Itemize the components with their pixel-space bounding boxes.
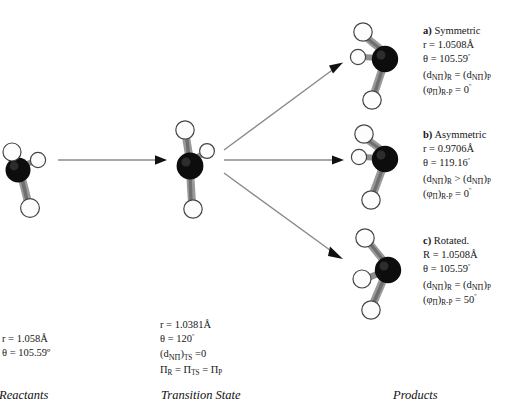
hydrogen-atom-3 — [362, 301, 380, 319]
molecule-product-b — [340, 112, 415, 212]
pi-subscript: Π — [433, 299, 438, 307]
nitrogen-highlight — [377, 151, 386, 160]
equals-sign: = — [455, 84, 461, 95]
product-a-d-relation: (dNΠ)R = (dNΠ)P — [423, 68, 491, 83]
product-c-relation-op: = — [454, 279, 460, 290]
degree-sign-2: º — [469, 83, 471, 91]
product-c-theta-value: 105.59 — [439, 263, 468, 274]
reactant-bond-length: r = 1.058Å — [2, 332, 50, 346]
hydrogen-atom-2 — [353, 270, 371, 288]
d-symbol-2: d — [466, 69, 471, 80]
product-b-d-relation: (dNΠ)R > (dNΠ)P — [423, 172, 491, 187]
equals-sign: = — [455, 188, 461, 199]
arrow-reactants-to-ts — [58, 150, 173, 170]
product-a-dihedral: (φΠ)R-P = 0º — [423, 83, 491, 98]
product-c-theta-label: θ = — [423, 263, 439, 274]
product-a-structure — [340, 12, 415, 112]
product-c-r-label: R = — [423, 249, 441, 260]
annotation-product-a: a) Symmetric r = 1.0508Å θ = 105.59º (dN… — [423, 24, 491, 98]
degree-sign: º — [468, 157, 470, 165]
hydrogen-atom-2 — [351, 149, 366, 164]
ts-subscript-2: TS — [191, 369, 199, 377]
annotation-transition-state: r = 1.0381Å θ = 120º (dNΠ)TS =0 ΠR = ΠTS… — [160, 318, 222, 378]
nitrogen-atom — [6, 158, 31, 183]
hydrogen-atom-2 — [30, 152, 45, 167]
d-subscript-2: NΠ — [472, 283, 484, 292]
product-b-angle: θ = 119.16º — [423, 156, 491, 171]
hydrogen-atom-1 — [354, 23, 372, 41]
degree-sign: º — [468, 53, 470, 61]
d-symbol: d — [427, 173, 432, 184]
phi-symbol: φ — [427, 188, 433, 199]
d-symbol: d — [427, 69, 432, 80]
d-symbol-2: d — [466, 279, 471, 290]
equals-sign: = — [455, 294, 461, 305]
product-a-relation-op: = — [454, 69, 460, 80]
molecule-reactants — [0, 118, 72, 228]
hydrogen-atom-3 — [362, 191, 380, 209]
product-a-title: Symmetric — [434, 25, 480, 36]
stage-label-transition-state: Transition State — [161, 388, 241, 403]
hydrogen-atom-1 — [356, 229, 374, 247]
transition-state-structure — [160, 115, 230, 220]
d-subscript-2: NΠ — [472, 177, 484, 186]
product-a-r-value: 1.0508Å — [438, 39, 474, 50]
nitrogen-highlight — [181, 157, 190, 166]
r-subscript: R — [447, 178, 452, 186]
pi-subscript: Π — [433, 89, 438, 97]
stage-label-reactants: Reactants — [0, 388, 48, 403]
product-c-r-value: 1.0508Å — [441, 249, 477, 260]
product-c-dihedral: (φΠ)R-P = 50º — [423, 293, 491, 308]
product-b-title: Asymmetric — [434, 129, 486, 140]
d-subscript: NΠ — [432, 73, 444, 82]
product-b-r-value: 0.9706Å — [438, 143, 474, 154]
product-b-theta-value: 119.16 — [439, 157, 468, 168]
stage-label-products: Products — [393, 388, 438, 403]
pi-subscript: Π — [433, 193, 438, 201]
p-subscript: P — [218, 369, 222, 377]
annotation-product-c: c) Rotated. R = 1.0508Å θ = 105.59º (dNΠ… — [423, 234, 491, 308]
reactant-structure — [0, 118, 72, 228]
product-b-bond-length: r = 0.9706Å — [423, 142, 491, 156]
d-subscript: NΠ — [432, 177, 444, 186]
product-b-structure — [340, 112, 415, 212]
pi-symbol-r: Π — [160, 364, 168, 375]
annotation-product-b: b) Asymmetric r = 0.9706Å θ = 119.16º (d… — [423, 128, 491, 202]
molecule-transition-state — [160, 115, 230, 220]
phi-symbol: φ — [427, 84, 433, 95]
nitrogen-atom — [372, 146, 398, 172]
arrow-ts-to-product-a — [222, 58, 352, 158]
r-subscript: R — [447, 284, 452, 292]
product-b-r-label: r = — [423, 143, 438, 154]
nitrogen-atom — [375, 257, 401, 283]
rp-subscript: R-P — [441, 299, 452, 307]
ts-bond-length: r = 1.0381Å — [160, 318, 222, 332]
product-c-d-relation: (dNΠ)R = (dNΠ)P — [423, 278, 491, 293]
ts-subscript: TS — [184, 354, 192, 362]
equals-2: = — [202, 364, 208, 375]
d-symbol-2: d — [466, 173, 471, 184]
hydrogen-atom-1 — [355, 125, 373, 143]
product-b-theta-label: θ = — [423, 157, 439, 168]
hydrogen-atom-1 — [176, 121, 194, 139]
product-c-angle: θ = 105.59º — [423, 262, 491, 277]
product-a-angle: θ = 105.59º — [423, 52, 491, 67]
degree-sign-2: º — [474, 293, 476, 301]
nitrogen-highlight — [10, 162, 19, 171]
ts-pi-relation: ΠR = ΠTS = ΠP — [160, 363, 222, 378]
ts-theta-label: θ = — [160, 333, 176, 344]
d-subscript: NΠ — [169, 353, 181, 362]
product-a-tag: a) — [423, 25, 432, 36]
hydrogen-atom-2 — [350, 49, 365, 64]
equals-1: = — [175, 364, 181, 375]
r-subscript: R — [447, 74, 452, 82]
product-c-structure — [340, 222, 415, 322]
nitrogen-highlight — [380, 262, 389, 271]
product-c-phi-value: 50 — [464, 294, 475, 305]
product-a-heading: a) Symmetric — [423, 24, 491, 38]
hydrogen-atom-2 — [200, 144, 215, 159]
arrow-ts-to-product-c — [222, 165, 352, 270]
d-subscript-2: NΠ — [472, 73, 484, 82]
r-subscript: R — [168, 369, 173, 377]
hydrogen-atom-1 — [3, 143, 21, 161]
